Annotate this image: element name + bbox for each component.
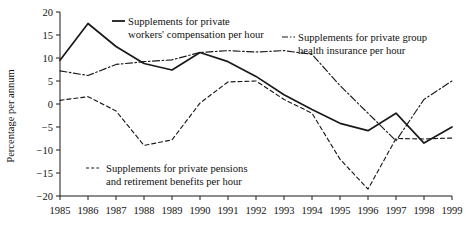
x-tick-label: 1997 [386,205,407,216]
chart-container: −20−15−10−505101520 19851986198719881989… [0,0,475,229]
x-tick-label: 1985 [50,205,71,216]
x-tick-label: 1994 [302,205,324,216]
x-tick-label: 1998 [414,205,435,216]
y-tick-label: −10 [37,145,53,156]
y-tick-label: 20 [43,7,54,18]
y-tick-label: −5 [42,122,53,133]
x-tick-label: 1991 [218,205,239,216]
x-tick-label: 1988 [134,205,155,216]
y-axis-title: Percentage per annum [5,69,16,162]
y-tick-label: 5 [48,76,53,87]
y-tick-label: 15 [43,30,54,41]
x-tick-label: 1987 [106,205,127,216]
x-tick-label: 1996 [358,205,379,216]
x-tick-label: 1995 [330,205,351,216]
y-tick-label: −20 [37,191,53,202]
x-tick-label: 1993 [274,205,295,216]
x-tick-label: 1990 [190,205,211,216]
y-tick-label: −15 [37,168,53,179]
x-tick-label: 1999 [442,205,463,216]
y-tick-label: 0 [48,99,53,110]
x-tick-label: 1992 [246,205,267,216]
x-tick-label: 1986 [78,205,99,216]
line-chart: −20−15−10−505101520 19851986198719881989… [0,0,475,229]
x-tick-label: 1989 [162,205,183,216]
y-tick-label: 10 [43,53,54,64]
